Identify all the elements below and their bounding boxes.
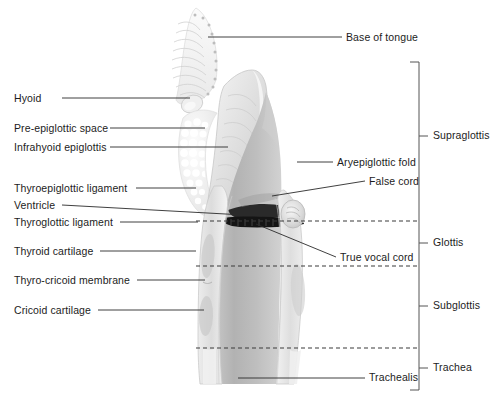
figure-canvas	[0, 0, 501, 405]
base-of-tongue-structure	[172, 8, 218, 105]
label-base-of-tongue: Base of tongue	[346, 32, 418, 43]
label-ventricle: Ventricle	[14, 200, 55, 211]
subsite-bracket	[410, 62, 428, 390]
label-supraglottis: Supraglottis	[433, 130, 490, 141]
label-hyoid: Hyoid	[14, 93, 41, 104]
trachealis-muscle	[289, 350, 301, 384]
leader-line-false-cord	[272, 181, 365, 196]
label-trachealis: Trachealis	[369, 372, 418, 383]
anatomy-illustration	[172, 8, 306, 384]
label-trachea: Trachea	[433, 362, 472, 373]
label-pre-epiglottic-space: Pre-epiglottic space	[14, 123, 108, 134]
larynx-anatomy-figure: HyoidPre-epiglottic spaceInfrahyoid epig…	[0, 0, 501, 405]
label-false-cord: False cord	[369, 176, 419, 187]
label-aryepiglottic-fold: Aryepiglottic fold	[337, 157, 416, 168]
label-thyroid-cartilage: Thyroid cartilage	[14, 246, 93, 257]
label-thyro-cricoid-membrane: Thyro-cricoid membrane	[14, 275, 130, 286]
label-thyroepiglottic-ligament: Thyroepiglottic ligament	[14, 183, 127, 194]
label-infrahyoid-epiglottis: Infrahyoid epiglottis	[14, 142, 107, 153]
label-cricoid-cartilage: Cricoid cartilage	[14, 305, 91, 316]
arytenoid-cartilage	[281, 200, 305, 228]
label-glottis: Glottis	[433, 237, 463, 248]
label-true-vocal-cord: True vocal cord	[340, 252, 413, 263]
label-subglottis: Subglottis	[433, 300, 480, 311]
label-thyroglottic-ligament: Thyroglottic ligament	[14, 217, 113, 228]
